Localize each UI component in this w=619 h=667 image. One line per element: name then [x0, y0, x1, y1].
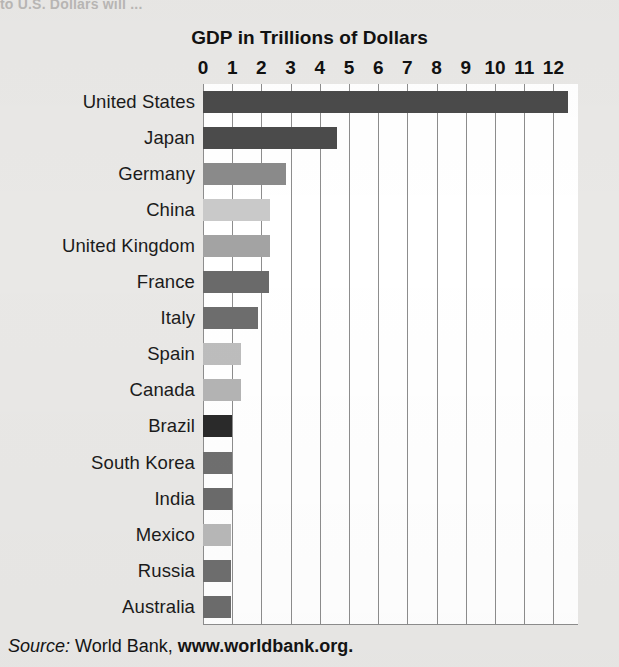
- bar-germany: [203, 163, 286, 185]
- category-label-canada: Canada: [130, 379, 195, 401]
- bar-row: United Kingdom: [0, 228, 619, 264]
- bar-china: [203, 199, 270, 221]
- bar-united-kingdom: [203, 235, 270, 257]
- bar-spain: [203, 343, 241, 365]
- source-publisher: World Bank,: [75, 636, 173, 656]
- category-label-spain: Spain: [147, 343, 195, 365]
- x-axis-tick-labels: 0123456789101112: [0, 57, 619, 81]
- category-label-united-kingdom: United Kingdom: [62, 235, 195, 257]
- x-tick-label-0: 0: [198, 57, 209, 79]
- category-label-united-states: United States: [83, 91, 195, 113]
- source-note: Source: World Bank, www.worldbank.org.: [8, 636, 353, 657]
- bar-russia: [203, 560, 231, 582]
- bar-france: [203, 271, 269, 293]
- bar-row: India: [0, 481, 619, 517]
- bar-japan: [203, 127, 337, 149]
- x-tick-label-1: 1: [227, 57, 238, 79]
- bar-row: Italy: [0, 300, 619, 336]
- x-tick-label-2: 2: [256, 57, 267, 79]
- category-label-germany: Germany: [118, 163, 195, 185]
- x-tick-label-6: 6: [373, 57, 384, 79]
- cut-off-header-text: to U.S. Dollars will ...: [0, 0, 619, 12]
- x-tick-label-4: 4: [315, 57, 326, 79]
- x-tick-label-3: 3: [285, 57, 296, 79]
- category-label-india: India: [154, 488, 195, 510]
- bar-australia: [203, 596, 231, 618]
- bar-row: Brazil: [0, 408, 619, 444]
- x-tick-label-8: 8: [431, 57, 442, 79]
- category-label-south-korea: South Korea: [91, 452, 195, 474]
- category-label-mexico: Mexico: [136, 524, 195, 546]
- bar-row: Germany: [0, 156, 619, 192]
- category-label-italy: Italy: [161, 307, 195, 329]
- category-label-france: France: [137, 271, 195, 293]
- chart-title: GDP in Trillions of Dollars: [0, 27, 619, 49]
- source-prefix: Source:: [8, 636, 70, 656]
- x-tick-label-5: 5: [344, 57, 355, 79]
- x-tick-label-11: 11: [514, 57, 534, 79]
- bar-row: Mexico: [0, 517, 619, 553]
- bar-row: Spain: [0, 336, 619, 372]
- bar-row: Russia: [0, 553, 619, 589]
- bar-united-states: [203, 91, 568, 113]
- bar-row: South Korea: [0, 445, 619, 481]
- bar-row: France: [0, 264, 619, 300]
- bar-mexico: [203, 524, 231, 546]
- category-label-russia: Russia: [138, 560, 195, 582]
- bar-row: United States: [0, 84, 619, 120]
- bar-row: Canada: [0, 372, 619, 408]
- source-url: www.worldbank.org.: [178, 636, 353, 656]
- x-tick-label-12: 12: [543, 57, 564, 79]
- x-tick-label-10: 10: [484, 57, 505, 79]
- bar-india: [203, 488, 232, 510]
- category-label-china: China: [146, 199, 195, 221]
- bar-row: Japan: [0, 120, 619, 156]
- x-tick-label-9: 9: [461, 57, 472, 79]
- x-tick-label-7: 7: [402, 57, 413, 79]
- category-label-brazil: Brazil: [148, 415, 195, 437]
- category-label-japan: Japan: [144, 127, 195, 149]
- bar-italy: [203, 307, 258, 329]
- bar-row: Australia: [0, 589, 619, 625]
- bar-brazil: [203, 415, 232, 437]
- bar-row: China: [0, 192, 619, 228]
- bar-canada: [203, 379, 241, 401]
- category-label-australia: Australia: [122, 596, 195, 618]
- bar-south-korea: [203, 452, 232, 474]
